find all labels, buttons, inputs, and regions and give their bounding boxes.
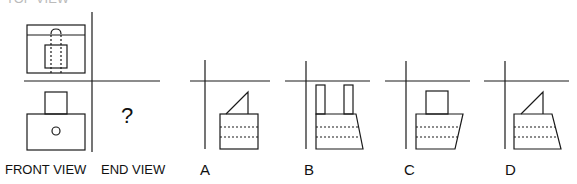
option-a-label[interactable]: A [200, 161, 210, 178]
option-d-drawing [484, 61, 569, 149]
option-d-label[interactable]: D [505, 161, 516, 178]
unknown-end-view-marker: ? [121, 103, 133, 129]
end-view-label: END VIEW [101, 162, 165, 177]
option-c-drawing [385, 61, 470, 149]
option-b-drawing [285, 61, 370, 149]
option-a-drawing [190, 60, 270, 149]
option-b-label[interactable]: B [304, 161, 314, 178]
top-view [27, 25, 85, 73]
orthographic-drawing [0, 0, 577, 184]
option-c-label[interactable]: C [404, 161, 415, 178]
front-view-label: FRONT VIEW [5, 162, 86, 177]
front-view [27, 92, 85, 150]
